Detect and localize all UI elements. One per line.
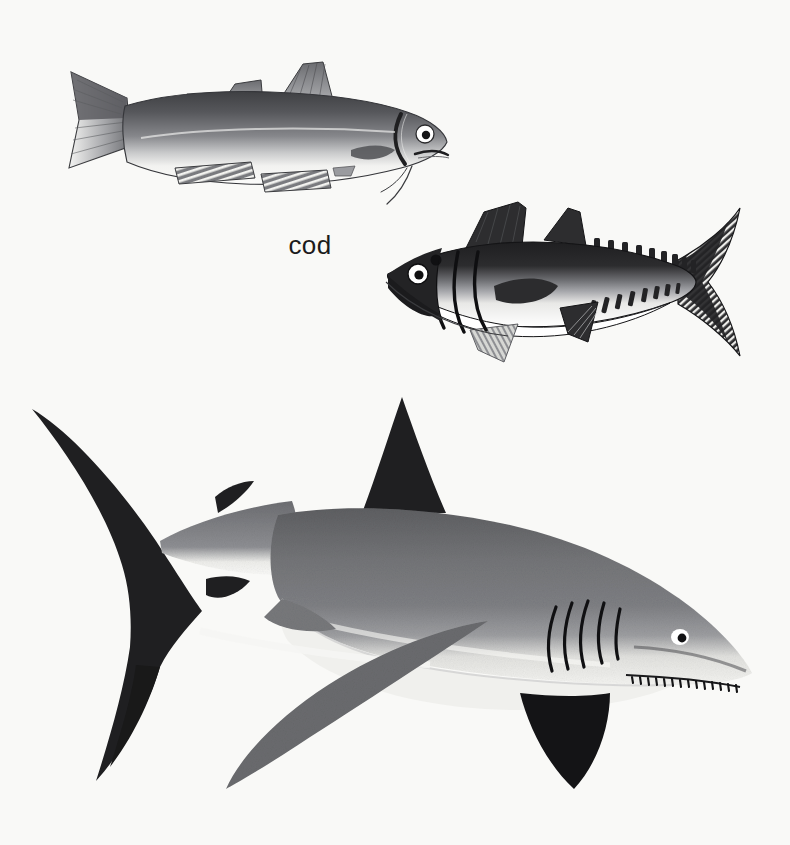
tuna-fish-illustration (372, 190, 790, 405)
shark-caudal-fin (32, 409, 202, 781)
shark-illustration (10, 385, 790, 825)
shark-second-dorsal-fin (215, 481, 254, 513)
shark-pelvic-fin (520, 693, 610, 789)
shark-anal-fin (206, 576, 250, 597)
shark-first-dorsal-fin (358, 397, 446, 523)
cod-body (123, 92, 447, 185)
illustration-page: cod (0, 0, 790, 845)
figure-tuna: tuna (372, 190, 790, 405)
figure-shark: shark (10, 385, 790, 825)
